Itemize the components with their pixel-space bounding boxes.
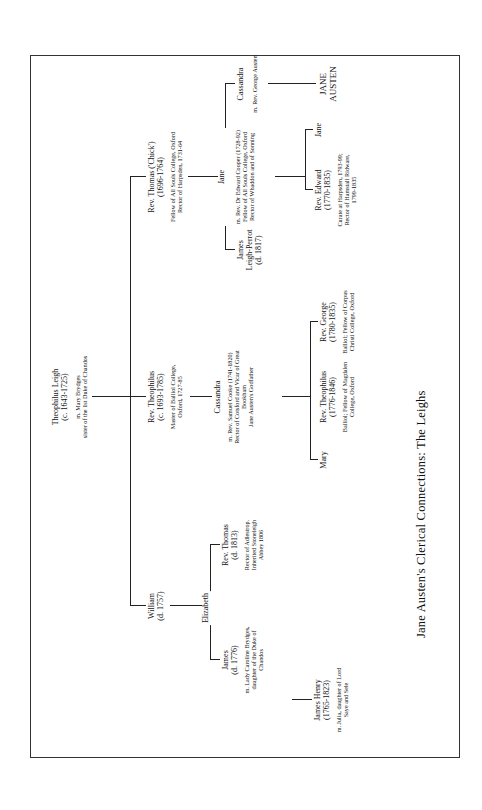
node-elizabeth: Elizabeth	[202, 591, 211, 625]
node-james-leigh-perrot: James Leigh-Perrot (d. 1817)	[237, 230, 264, 271]
jane-austen-name: JANE	[318, 66, 328, 102]
cassandra-cooke-name: Cassandra	[214, 350, 223, 444]
thomas-dates: (1696-1764)	[157, 132, 166, 222]
thomas-drop	[130, 176, 146, 177]
cassandra-austen-note: m. Rev. George Austen	[252, 55, 259, 112]
cooke-children-bar	[310, 322, 311, 460]
node-rev-thomas-adlestrop: Rev. Thomas (d. 1813) Rector of Adlestro…	[222, 520, 265, 570]
jane-name: Jane	[315, 123, 324, 137]
theophilus-note-2: Oxford, 1727-85	[177, 365, 184, 430]
jane-austen-name2: AUSTEN	[328, 66, 338, 102]
thomas-note-2: Rector of Harpsden, 1731-64	[177, 132, 184, 222]
node-rev-theophilus-magdalen: Rev. Theophilus (1776-1846) Balliol; Fel…	[320, 362, 356, 432]
node-rev-theophilus-master: Rev. Theophilus (c. 1693-1785) Master of…	[148, 365, 184, 430]
william-dates: (d. 1757)	[157, 591, 166, 620]
rev-edward-drop	[305, 189, 313, 190]
cassandra-austen-drop	[225, 83, 235, 84]
cassandra-cooke-note-4: Jane Austen's Godfather	[248, 350, 255, 444]
node-rev-edward: Rev. Edward (1770-1835) Curate at Harpsd…	[315, 153, 358, 226]
theophilus-drop	[130, 396, 146, 397]
node-mary: Mary	[320, 451, 329, 468]
root-spouse-note: sister of the 1st Duke of Chandos	[82, 356, 89, 439]
rev-george-note-2: Christi College, Oxford	[349, 290, 356, 353]
cooper-children-bar	[305, 130, 306, 190]
theophilus-children-connector	[190, 396, 212, 397]
rev-edward-dates: (1770-1835)	[324, 153, 333, 226]
james-henry-connector	[292, 699, 312, 700]
cooper-children-connector	[275, 176, 305, 177]
leigh-perrot-dates: (d. 1817)	[255, 230, 264, 271]
gen2-sibling-bar	[130, 177, 131, 606]
mary-drop	[310, 459, 318, 460]
theophilus-dates: (c. 1693-1785)	[157, 365, 166, 430]
node-james: James (d. 1776) m. Lady Caroline Brydges…	[222, 626, 265, 693]
family-tree-canvas: Theophilus Leigh (c. 1643-1725) m. Mary …	[30, 55, 460, 758]
elizabeth-name: Elizabeth	[202, 593, 211, 623]
node-jane-austen: JANE AUSTEN	[318, 66, 338, 102]
james-henry-dates: (1765-1823)	[323, 668, 332, 733]
root-dates: (c. 1643-1725)	[61, 356, 70, 439]
node-rev-thomas-chick: Rev. Thomas ('Chick') (1696-1764) Fellow…	[148, 132, 184, 222]
jane-cooper-note-3: Rector of Whaddon and of Sonning	[249, 130, 256, 224]
jane-cooper-name: Jane	[218, 130, 227, 224]
rev-thomas-drop	[210, 544, 220, 545]
node-jane: Jane	[315, 123, 324, 137]
james-dates: (d. 1776)	[231, 626, 240, 693]
node-jane-cooper: Jane m. Rev. Dr Edward Cooper (1728-92) …	[218, 128, 256, 226]
rev-george-drop	[310, 321, 318, 322]
node-rev-george: Rev. George (1780-1835) Balliol; Fellow …	[320, 290, 356, 353]
rev-theophilus-note-2: College, Oxford	[349, 362, 356, 432]
cooke-children-connector	[282, 396, 310, 397]
node-cassandra-austen: Cassandra m. Rev. George Austen	[237, 55, 259, 112]
jane-drop	[305, 129, 313, 130]
rev-thomas-note-3: Abbey 1806	[258, 520, 265, 570]
leigh-perrot-drop	[225, 249, 235, 250]
james-note-3: Chandos	[258, 626, 265, 693]
node-william: William (d. 1757)	[148, 591, 166, 620]
rev-theophilus-dates: (1776-1846)	[329, 362, 338, 432]
rev-george-dates: (1780-1835)	[329, 290, 338, 353]
cassandra-austen-name: Cassandra	[237, 55, 246, 112]
root-connector	[92, 396, 130, 397]
james-henry-note-2: Saye and Sele	[343, 668, 350, 733]
mary-name: Mary	[320, 451, 329, 468]
diagram-title: Jane Austen's Clerical Connections: The …	[414, 390, 429, 638]
rev-thomas-dates: (d. 1813)	[231, 520, 240, 570]
node-james-henry: James Henry (1765-1823) m. Julia, daught…	[314, 668, 350, 733]
william-drop	[130, 605, 146, 606]
node-cassandra-cooke: Cassandra m. Rev. Samuel Cooke (1741-182…	[214, 350, 255, 444]
james-drop	[210, 659, 220, 660]
jane-austen-connector	[268, 83, 316, 84]
rev-edward-note-3: 1799-1835	[351, 153, 358, 226]
node-theophilus-leigh: Theophilus Leigh (c. 1643-1725) m. Mary …	[52, 356, 89, 439]
